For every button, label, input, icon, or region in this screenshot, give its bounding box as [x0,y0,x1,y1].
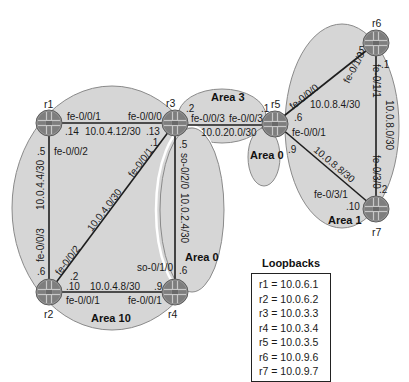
loopbacks-legend: Loopbacks r1 = 10.0.6.1 r2 = 10.0.6.2 r3… [251,257,331,382]
iface-label: fe-0/0/1 [128,295,162,306]
subnet-label: 10.0.2.4/30 [179,193,190,243]
router-r2[interactable] [36,279,62,305]
router-label-r3: r3 [166,97,175,109]
loopback-entry: r1 = 10.0.6.1 [259,277,330,292]
subnet-label: 10.0.8.0/30 [384,100,395,150]
host-label: .6 [294,112,303,123]
host-label: .1 [150,137,159,148]
subnet-label: 10.0.4.12/30 [85,126,141,137]
loopback-entry: r2 = 10.0.6.2 [259,292,330,307]
iface-label: fe-0/0/1 [292,127,326,138]
router-label-r1: r1 [44,98,53,110]
host-label: .13 [146,126,160,137]
router-icon [36,110,62,136]
host-label: .14 [65,126,79,137]
host-label: .5 [37,146,46,157]
router-label-r4: r4 [168,308,177,320]
loopback-entry: r6 = 10.0.9.6 [259,350,330,365]
iface-label: fe-0/0/3 [229,113,263,124]
router-icon [363,196,389,222]
router-r4[interactable] [162,279,188,305]
host-label: .10 [346,201,360,212]
iface-label: so-0/1/0 [137,262,174,273]
iface-label: fe-0/0/0 [128,111,162,122]
router-r3[interactable] [162,110,188,136]
router-label-r5: r5 [271,98,280,110]
router-label-r2: r2 [44,308,53,320]
iface-label: fe-0/0/1 [66,295,100,306]
router-r6[interactable] [363,30,389,56]
subnet-label: 10.0.8.4/30 [310,99,360,110]
host-label: .1 [261,103,270,114]
iface-label: fe-0/0/3 [191,113,225,124]
host-label: .6 [179,265,188,276]
loopbacks-title: Loopbacks [251,257,331,269]
subnet-label: 10.0.20.0/30 [201,127,257,138]
loopback-entry: r3 = 10.0.3.3 [259,306,330,321]
host-label: .10 [66,281,80,292]
router-icon [363,30,389,56]
router-icon [162,110,188,136]
host-label: .2 [379,184,388,195]
host-label: .9 [154,281,163,292]
loopbacks-table: r1 = 10.0.6.1 r2 = 10.0.6.2 r3 = 10.0.3.… [251,273,331,382]
loopback-entry: r7 = 10.0.9.7 [259,364,330,379]
loopback-entry: r4 = 10.0.3.4 [259,321,330,336]
subnet-label: 10.0.4.4/30 [35,160,46,210]
router-icon [36,279,62,305]
area-label-area0-r5: Area 0 [250,149,284,161]
host-label: .6 [37,266,46,277]
iface-label: fe-0/0/3 [35,228,46,262]
iface-label: fe-0/1/1 [371,64,382,98]
router-icon [162,279,188,305]
area-label-area10: Area 10 [91,312,131,324]
router-r7[interactable] [363,196,389,222]
router-r5[interactable] [262,111,288,137]
area-label-area3: Area 3 [211,91,245,103]
router-icon [262,111,288,137]
ospf-topology-diagram: r1 r2 r3 r4 r5 r6 r7 Area 10 Area 0 Area… [0,0,409,382]
loopback-entry: r5 = 10.0.3.5 [259,335,330,350]
iface-label: so-0/2/0 [179,153,190,190]
iface-label: fe-0/3/1 [314,189,348,200]
router-label-r7: r7 [372,226,381,238]
router-r1[interactable] [36,110,62,136]
host-label: .5 [179,139,188,150]
area-label-area1: Area 1 [328,214,362,226]
iface-label: fe-0/0/2 [54,146,88,157]
router-label-r6: r6 [372,17,381,29]
subnet-label: 10.0.4.8/30 [90,281,140,292]
iface-label: fe-0/0/1 [67,111,101,122]
host-label: .5 [356,45,365,56]
area-label-area0-core: Area 0 [185,251,219,263]
host-label: .9 [288,144,297,155]
